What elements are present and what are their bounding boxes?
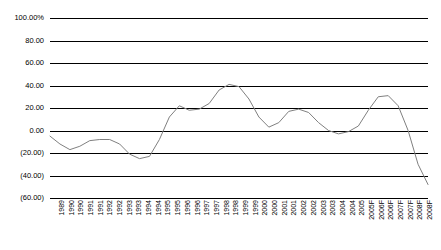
x-tick-label: 2007F (397, 200, 404, 220)
x-tick-label: 1997 (203, 200, 210, 216)
x-tick-label: 1990 (77, 200, 84, 216)
x-tick-label: 1997 (213, 200, 220, 216)
x-tick-label: 1992 (106, 200, 113, 216)
x-tick-label: 2002 (300, 200, 307, 216)
x-tick-label: 2003 (320, 200, 327, 216)
series-line-growth-rate (50, 84, 428, 184)
y-tick-label: 0.00 (29, 127, 44, 135)
x-tick-label: 1993 (135, 200, 142, 216)
x-tick-label: 2007F (407, 200, 414, 220)
x-tick-label: 1996 (184, 200, 191, 216)
x-tick-label: 1990 (68, 200, 75, 216)
x-tick-label: 1999 (252, 200, 259, 216)
x-tick-label: 1998 (232, 200, 239, 216)
x-tick-label: 2000 (261, 200, 268, 216)
x-tick-label: 1991 (87, 200, 94, 216)
y-tick-label: 60.00 (25, 59, 44, 67)
x-tick-label: 1998 (223, 200, 230, 216)
chart-container: 100.00%80.0060.0040.0020.000.00(20.00)(4… (0, 0, 441, 250)
y-tick-label: 20.00 (25, 104, 44, 112)
plot-area (50, 18, 428, 198)
x-tick-label: 2003 (329, 200, 336, 216)
y-tick-label: 100.00% (14, 14, 44, 22)
y-tick-label: (40.00) (20, 172, 44, 180)
x-tick-label: 2001 (290, 200, 297, 216)
x-tick-label: 2002 (310, 200, 317, 216)
y-tick-label: (20.00) (20, 149, 44, 157)
x-tick-label: 1996 (194, 200, 201, 216)
x-tick-label: 2006F (378, 200, 385, 220)
line-series (50, 18, 428, 198)
x-tick-label: 2001 (281, 200, 288, 216)
x-tick-label: 2004 (339, 200, 346, 216)
y-tick-label: 80.00 (25, 37, 44, 45)
x-tick-label: 1993 (126, 200, 133, 216)
x-tick-label: 1994 (155, 200, 162, 216)
x-tick-label: 2008F (416, 200, 423, 220)
x-tick-label: 1991 (97, 200, 104, 216)
x-tick-label: 2000 (271, 200, 278, 216)
x-tick-label: 2005 (358, 200, 365, 216)
x-axis: 1989199019901991199119921992199319931994… (50, 198, 428, 250)
x-tick-label: 1995 (174, 200, 181, 216)
x-tick-label: 2004 (349, 200, 356, 216)
x-tick-label: 1992 (116, 200, 123, 216)
y-axis: 100.00%80.0060.0040.0020.000.00(20.00)(4… (0, 0, 47, 250)
y-tick-label: 40.00 (25, 82, 44, 90)
x-tick-label: 2008F (426, 200, 433, 220)
x-tick-label: 2006F (387, 200, 394, 220)
x-tick-label: 1989 (58, 200, 65, 216)
x-tick-label: 1994 (145, 200, 152, 216)
y-tick-label: (60.00) (20, 194, 44, 202)
x-tick-label: 1995 (164, 200, 171, 216)
x-tick-label: 1999 (242, 200, 249, 216)
x-tick-label: 2005F (368, 200, 375, 220)
